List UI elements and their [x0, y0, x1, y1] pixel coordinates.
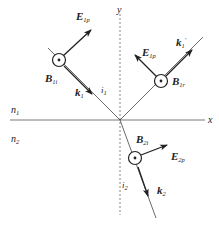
b1i-label: B1i — [44, 72, 58, 85]
x-axis-label: x — [207, 114, 213, 125]
b1i-dot — [58, 59, 61, 62]
e1p-prime-label: E1p — [141, 46, 157, 59]
k2-arrow — [138, 167, 148, 196]
b2i-dot — [134, 157, 137, 160]
medium-1-label: n1 — [11, 104, 19, 116]
i1-angle-label: i1 — [101, 85, 107, 96]
e1p-label: E1p — [75, 10, 91, 23]
k2-label: k2 — [157, 184, 167, 197]
e2p-arrow — [141, 145, 167, 155]
i2-angle-label: i2 — [122, 180, 129, 191]
b1r-label: B1r — [171, 75, 186, 88]
e1p-arrow — [63, 30, 91, 56]
k1-prime-label: k1′ — [176, 36, 187, 49]
k1-label: k1 — [75, 86, 84, 99]
medium-2-label: n2 — [11, 133, 20, 145]
y-axis-label: y — [116, 4, 122, 15]
wave-interface-diagram: x y n1 n2 E1p B1i k1 i1 E1p k1′ B1r B2i … — [0, 0, 219, 226]
k1-prime-arrow — [166, 50, 192, 76]
e2p-label: E2p — [170, 150, 186, 163]
b2i-label: B2i — [135, 133, 149, 146]
b1r-dot — [160, 80, 163, 83]
